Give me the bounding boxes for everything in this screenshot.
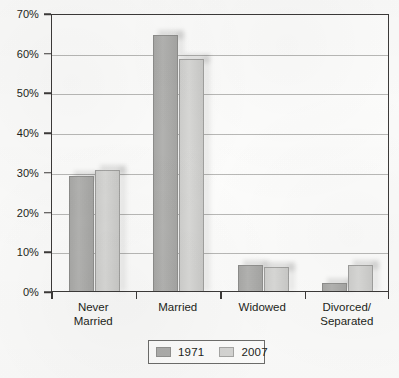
- y-tick-mark-30: [44, 172, 51, 174]
- bar-face: [95, 170, 120, 291]
- bar-shadow-side: [119, 167, 126, 291]
- bar-face: [153, 35, 178, 291]
- bar-1971-divorced--separated: [322, 283, 347, 291]
- y-tick-mark-10: [44, 252, 51, 254]
- y-tick-mark-40: [44, 132, 51, 134]
- x-category-label-married: Married: [158, 301, 197, 315]
- y-tick-mark-50: [44, 93, 51, 95]
- bar-1971-widowed: [238, 265, 263, 291]
- y-tick-mark-70: [44, 13, 51, 15]
- bar-face: [238, 265, 263, 291]
- legend-label-1971: 1971: [178, 346, 204, 358]
- y-tick-mark-0: [44, 291, 51, 293]
- bar-face: [264, 267, 289, 291]
- bar-1971-never-married: [69, 176, 94, 291]
- bar-2007-widowed: [264, 267, 289, 291]
- bar-2007-never-married: [95, 170, 120, 291]
- y-tick-mark-60: [44, 53, 51, 55]
- y-axis: 0%10%20%30%40%50%60%70%: [0, 0, 51, 292]
- y-tick-label-20: 20%: [17, 207, 39, 218]
- legend-entry-2007: 2007: [219, 346, 267, 358]
- gridline-40: [52, 134, 388, 135]
- bar-face: [322, 283, 347, 291]
- y-tick-label-40: 40%: [17, 128, 39, 139]
- legend-swatch-2007: [219, 347, 234, 357]
- plot-area: [51, 14, 389, 292]
- y-tick-label-10: 10%: [17, 247, 39, 258]
- x-category-label-never-married: Never Married: [74, 301, 113, 328]
- x-tick-mark-0: [51, 292, 53, 299]
- bar-1971-married: [153, 35, 178, 291]
- gridline-50: [52, 94, 388, 95]
- x-tick-mark-1: [136, 292, 138, 299]
- legend-entry-1971: 1971: [156, 346, 204, 358]
- chart-legend: 1971 2007: [148, 340, 265, 364]
- y-tick-label-50: 50%: [17, 88, 39, 99]
- y-tick-mark-20: [44, 212, 51, 214]
- x-tick-mark-4: [388, 292, 390, 299]
- legend-swatch-1971: [156, 347, 171, 357]
- legend-label-2007: 2007: [241, 346, 267, 358]
- x-category-label-widowed: Widowed: [239, 301, 286, 315]
- y-tick-label-0: 0%: [23, 287, 39, 298]
- y-tick-label-60: 60%: [17, 48, 39, 59]
- bar-face: [69, 176, 94, 291]
- x-category-label-divorced--separated: Divorced/ Separated: [320, 301, 373, 328]
- x-tick-mark-3: [305, 292, 307, 299]
- bar-face: [179, 59, 204, 291]
- bar-shadow-side: [372, 262, 379, 291]
- bar-shadow-side: [203, 56, 210, 291]
- bar-shadow-side: [288, 264, 295, 291]
- x-tick-mark-2: [220, 292, 222, 299]
- bar-chart-figure: 0%10%20%30%40%50%60%70% Never MarriedMar…: [0, 0, 399, 378]
- bar-2007-divorced--separated: [348, 265, 373, 291]
- bar-2007-married: [179, 59, 204, 291]
- x-axis: Never MarriedMarriedWidowedDivorced/ Sep…: [51, 292, 389, 338]
- bar-face: [348, 265, 373, 291]
- y-tick-label-30: 30%: [17, 167, 39, 178]
- y-tick-label-70: 70%: [17, 9, 39, 20]
- gridline-60: [52, 55, 388, 56]
